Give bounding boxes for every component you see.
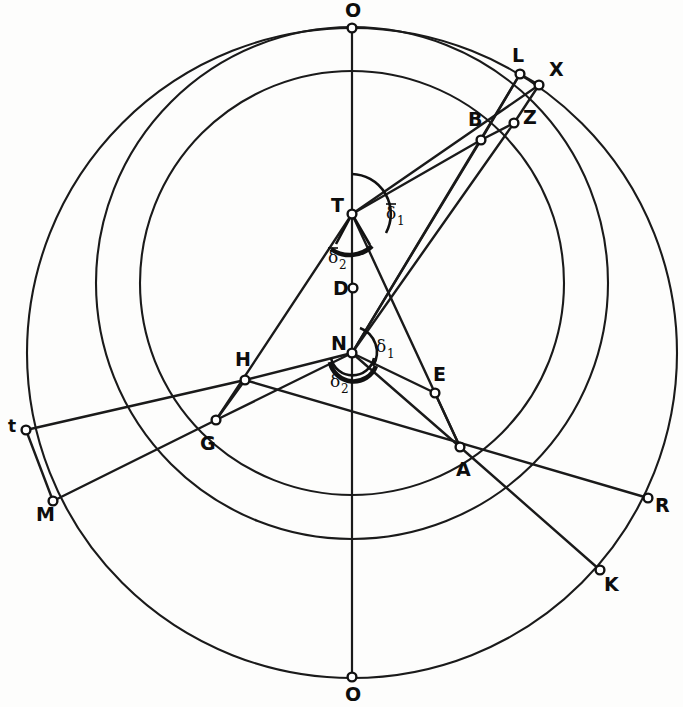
point-marker-D <box>349 284 358 293</box>
angle-label-base-delta_bar_2: δ <box>328 247 338 267</box>
point-label-K: K <box>604 573 620 595</box>
point-marker-N <box>348 349 357 358</box>
point-label-R: R <box>655 494 670 516</box>
point-label-N: N <box>331 332 347 354</box>
diagram-canvas: OLXZBTDNHEGtARMKO δ1δ2δ1δ2 <box>0 0 683 707</box>
point-marker-G <box>212 416 221 425</box>
chord-A-K <box>460 447 600 570</box>
point-label-D: D <box>333 277 349 299</box>
point-label-L: L <box>512 44 524 66</box>
chord-H-E <box>245 380 648 498</box>
point-label-B: B <box>468 108 482 130</box>
chord-T-B <box>352 140 481 214</box>
angle-label-base-delta_bar_1: δ <box>386 203 396 223</box>
point-marker-T <box>348 210 357 219</box>
point-label-X: X <box>549 58 564 80</box>
point-marker-O_top <box>348 24 357 33</box>
point-label-H: H <box>235 348 251 370</box>
point-marker-t <box>22 426 31 435</box>
angle-label-delta_bar_2: δ2 <box>328 247 347 272</box>
angle-label-sub-delta_2: 2 <box>341 382 349 396</box>
point-label-A: A <box>456 458 471 480</box>
point-marker-X <box>535 81 544 90</box>
angle-label-base-delta_2: δ <box>330 371 340 391</box>
point-label-G: G <box>200 432 216 454</box>
geometric-diagram: OLXZBTDNHEGtARMKO δ1δ2δ1δ2 <box>0 0 683 707</box>
angle-label-sub-delta_bar_1: 1 <box>397 214 405 228</box>
angle-label-sub-delta_1: 1 <box>387 347 395 361</box>
point-marker-L <box>516 70 525 79</box>
point-marker-R <box>644 494 653 503</box>
point-label-Z: Z <box>523 106 537 128</box>
angle-label-delta_1: δ1 <box>376 336 395 361</box>
point-marker-E <box>431 389 440 398</box>
point-marker-O_bottom <box>348 673 357 682</box>
point-label-E: E <box>433 363 446 385</box>
point-marker-Z <box>510 119 519 128</box>
point-label-T: T <box>331 194 344 216</box>
point-labels-group: OLXZBTDNHEGtARMKO <box>8 0 670 705</box>
angle-label-sub-delta_bar_2: 2 <box>339 258 347 272</box>
point-marker-B <box>477 136 486 145</box>
chord-T-X <box>352 85 539 214</box>
chord-M-G <box>53 420 216 501</box>
point-label-O_top: O <box>345 0 361 21</box>
angle-label-base-delta_1: δ <box>376 336 386 356</box>
point-label-M: M <box>36 503 55 525</box>
point-label-t: t <box>8 416 16 436</box>
point-marker-A <box>456 443 465 452</box>
chords-group <box>26 74 648 570</box>
point-marker-H <box>241 376 250 385</box>
point-label-O_bottom: O <box>345 683 361 705</box>
